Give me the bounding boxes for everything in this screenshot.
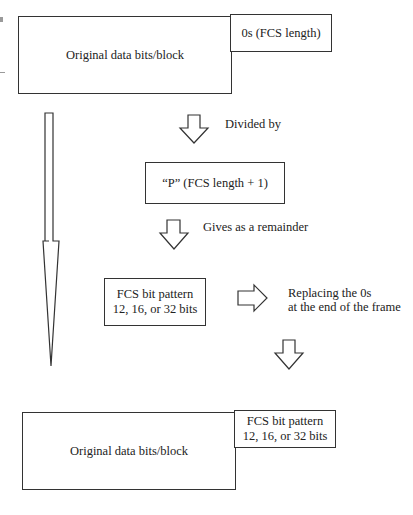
arrows-layer [0, 0, 413, 515]
down-arrow-remainder-icon [160, 220, 188, 249]
right-arrow-replacing-icon [238, 285, 267, 311]
long-down-arrow-icon [43, 113, 59, 366]
down-arrow-final-icon [275, 340, 303, 369]
fcs-process-diagram: Original data bits/block 0s (FCS length)… [0, 0, 413, 515]
down-arrow-divided-icon [180, 115, 208, 143]
